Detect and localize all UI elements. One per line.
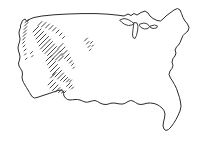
us-map-svg bbox=[0, 0, 207, 145]
us-map-figure bbox=[0, 0, 207, 145]
lake-outline-3 bbox=[151, 25, 158, 29]
